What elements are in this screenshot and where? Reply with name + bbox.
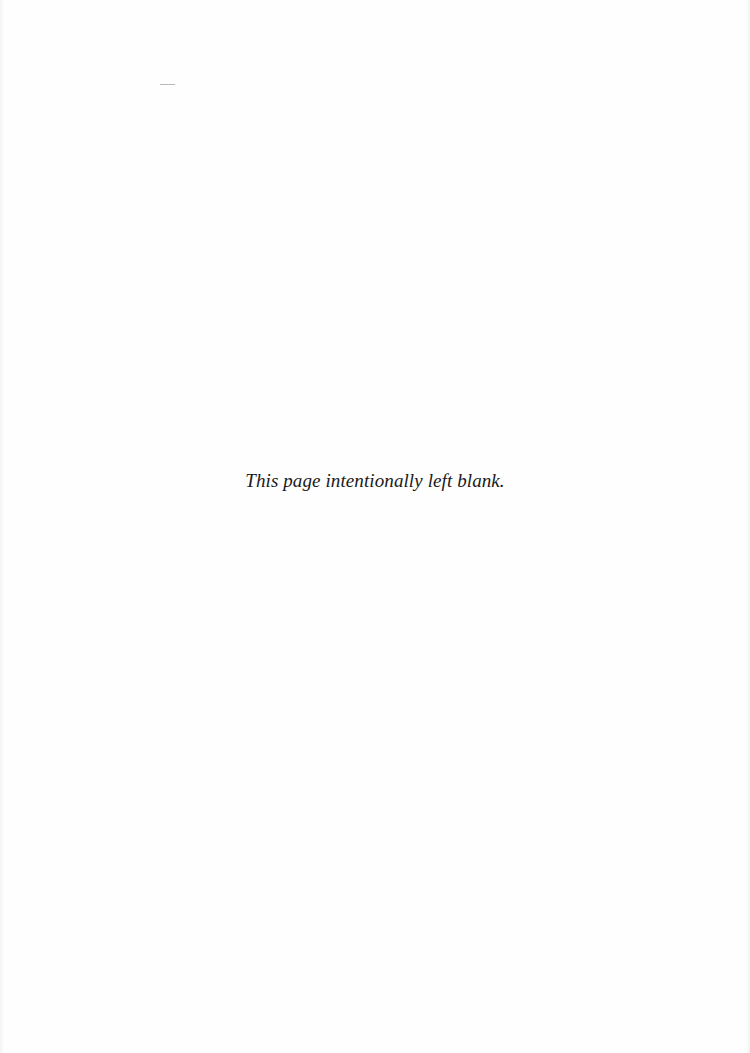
blank-page: This page intentionally left blank. <box>0 0 750 1053</box>
header-rule-mark <box>160 84 175 85</box>
page-edge-right <box>746 0 750 1053</box>
blank-page-notice: This page intentionally left blank. <box>0 470 750 492</box>
page-edge-left <box>0 0 4 1053</box>
